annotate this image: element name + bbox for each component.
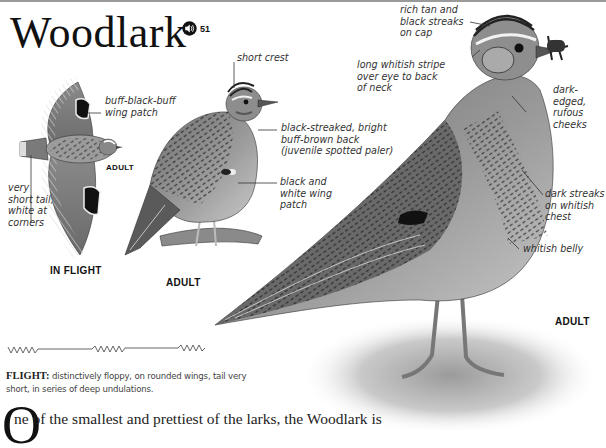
label-cheeks: dark- edged, rufous cheeks <box>553 84 587 130</box>
label-belly: whitish belly <box>523 243 583 255</box>
label-wing-patch-flight: buff-black-buff wing patch <box>105 95 176 118</box>
label-short-crest: short crest <box>237 52 289 64</box>
label-back: black-streaked, bright buff-brown back (… <box>281 122 393 157</box>
flight-pattern-icon <box>6 344 226 356</box>
flight-heading: FLIGHT: <box>6 370 50 381</box>
flight-description: FLIGHT: distinctively floppy, on rounded… <box>6 370 256 395</box>
label-chest: dark streaks on whitish chest <box>545 188 605 223</box>
caption-standing-adult: ADULT <box>555 316 590 327</box>
label-eye-stripe: long whitish stripe over eye to back of … <box>357 59 445 94</box>
body-paragraph: ne of the smallest and prettiest of the … <box>14 410 382 428</box>
caption-in-flight: IN FLIGHT <box>50 265 102 276</box>
caption-in-flight-adult: ADULT <box>106 163 134 172</box>
caption-perched-adult: ADULT <box>166 277 201 288</box>
label-short-tail: very short tail, white at corners <box>8 182 54 228</box>
label-cap: rich tan and black streaks on cap <box>400 4 464 39</box>
label-wing-patch-perched: black and white wing patch <box>280 176 332 211</box>
